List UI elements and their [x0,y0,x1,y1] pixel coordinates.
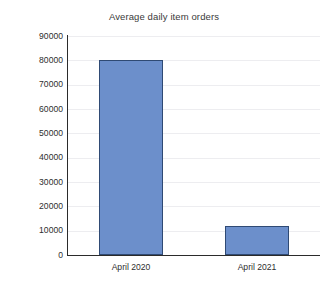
bar [99,60,163,255]
x-axis-line [67,255,320,256]
y-axis-tick-label: 80000 [3,55,63,65]
bar-chart: Average daily item orders 01000020000300… [0,0,328,287]
y-axis-tick-label: 70000 [3,79,63,89]
y-axis-tick-label: 50000 [3,128,63,138]
y-axis-tick-label: 90000 [3,31,63,41]
x-axis-tick-label: April 2021 [197,262,317,272]
y-axis-tick-label: 30000 [3,177,63,187]
y-axis-tick-labels: 0100002000030000400005000060000700008000… [0,0,63,287]
y-axis-tick-label: 40000 [3,152,63,162]
plot-area [68,36,320,255]
y-axis-tick-label: 60000 [3,104,63,114]
bar [225,226,289,255]
x-axis-tick-label: April 2020 [71,262,191,272]
gridline [68,36,320,37]
y-axis-tick-label: 10000 [3,225,63,235]
y-axis-tick-label: 0 [3,250,63,260]
y-axis-tick-label: 20000 [3,201,63,211]
